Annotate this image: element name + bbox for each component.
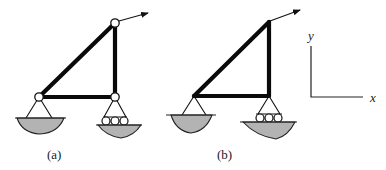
hinge-top-a [111, 19, 119, 27]
diagonal-member-a [39, 23, 115, 97]
panel-label-a: (a) [47, 147, 61, 162]
pin-support-a [15, 97, 66, 134]
hinge-right-a [111, 93, 119, 101]
pin-support-b [166, 96, 216, 133]
x-axis-label: x [369, 90, 376, 105]
roller-support-a [96, 97, 142, 138]
panel-b: (b) [166, 10, 300, 162]
panel-a: (a) [15, 13, 148, 162]
diagonal-member-b [194, 22, 269, 96]
roller-support-b [240, 96, 297, 139]
coordinate-axes: y x [306, 28, 376, 105]
force-arrow-icon-b [270, 10, 300, 21]
structural-diagram: (a) (b) y x [0, 0, 386, 170]
hinge-left-a [35, 93, 43, 101]
panel-label-b: (b) [217, 147, 232, 162]
force-arrow-icon-a [119, 13, 148, 21]
y-axis-label: y [306, 28, 314, 43]
